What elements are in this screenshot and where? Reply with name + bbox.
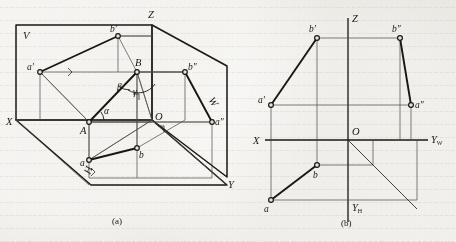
ortho-label-point-b-side: b″ [392, 24, 402, 34]
segment-a-b-top [89, 148, 137, 160]
pictorial-plane-outlines [16, 25, 227, 185]
label-axis-y: Y [228, 179, 235, 190]
point-a-top-marker [87, 158, 92, 163]
ortho-label-yw-sub: W [437, 140, 443, 146]
point-b-side-marker [183, 70, 188, 75]
point-b-front-marker [116, 34, 121, 39]
caption-a: (a) [112, 216, 122, 226]
ortho-label-point-a-side: a″ [415, 100, 425, 110]
ortho-axes [265, 18, 428, 222]
label-origin-o: O [155, 111, 163, 122]
point-B-marker [135, 70, 140, 75]
ortho-segment-asec-bsec [400, 38, 411, 105]
ortho-segment-a-b [271, 165, 317, 200]
segment-aprime-bprime [40, 36, 118, 72]
ortho-label-axis-z: Z [352, 13, 358, 24]
ortho-line-projections [271, 38, 411, 200]
ortho-label-point-b-front: b' [309, 24, 317, 34]
label-point-a-top: a [80, 158, 85, 168]
point-A-marker [87, 120, 92, 125]
ortho-label-point-a-top: a [264, 204, 269, 214]
ortho-point-a-top-marker [269, 198, 274, 203]
ortho-point-a-front-marker [269, 103, 274, 108]
label-point-a-front: a' [27, 62, 35, 72]
figure-page: V W H X Y Z O A B a' b' a″ b″ a b α β γ … [0, 0, 456, 242]
label-point-A: A [79, 125, 87, 136]
label-axis-x: X [5, 116, 13, 127]
label-point-b-side: b″ [188, 62, 198, 72]
ortho-45-line [348, 140, 417, 209]
label-point-a-side: a″ [215, 117, 225, 127]
ortho-point-b-side-marker [398, 36, 403, 41]
v-plane-outline [16, 25, 152, 120]
ortho-point-b-front-marker [315, 36, 320, 41]
axis-y-line [152, 120, 227, 185]
ortho-point-a-side-marker [409, 103, 414, 108]
label-point-b-front: b' [110, 24, 118, 34]
ortho-label-origin-o: O [352, 126, 360, 137]
point-a-front-marker [38, 70, 43, 75]
figure-svg: V W H X Y Z O A B a' b' a″ b″ a b α β γ … [0, 0, 456, 242]
label-point-B: B [135, 57, 142, 68]
ortho-construction-lines [271, 38, 417, 200]
helper-b-depth [137, 120, 185, 148]
ortho-segment-aprime-bprime [271, 38, 317, 105]
pictorial-point-markers [38, 34, 215, 163]
ortho-label-axis-x: X [252, 135, 260, 146]
segment-asec-bsec [185, 72, 212, 122]
point-a-side-marker [210, 120, 215, 125]
ortho-label-point-a-front: a' [258, 95, 266, 105]
helper-A-aprime [40, 72, 89, 122]
label-axis-z: Z [148, 9, 154, 20]
ortho-label-axis-yh: YH [352, 202, 363, 214]
ortho-bisector [348, 140, 417, 209]
label-angle-gamma: γ [133, 87, 137, 97]
caption-b: (b) [341, 218, 352, 228]
helper-h-inner-edge [16, 120, 89, 185]
ortho-point-b-top-marker [315, 163, 320, 168]
label-plane-w: W [206, 95, 221, 109]
label-angle-alpha: α [104, 106, 110, 116]
ortho-label-yh-sub: H [358, 208, 363, 214]
segment-AB [89, 72, 137, 122]
label-plane-v: V [23, 30, 31, 41]
ortho-label-point-b-top: b [313, 170, 318, 180]
label-angle-beta: β [116, 82, 122, 92]
label-point-b-top: b [139, 150, 144, 160]
ortho-point-markers [269, 36, 414, 203]
ortho-label-axis-yw: YW [431, 134, 443, 146]
